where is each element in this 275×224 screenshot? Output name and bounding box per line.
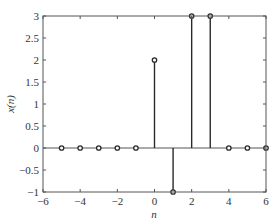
x-tick-label: 2 bbox=[189, 195, 195, 207]
y-tick-label: 1.5 bbox=[25, 76, 39, 88]
stem-marker bbox=[59, 146, 63, 150]
x-tick-label: 6 bbox=[263, 195, 269, 207]
y-tick-label: 2 bbox=[34, 54, 40, 66]
y-tick-label: 0.5 bbox=[25, 120, 39, 132]
x-axis-label: n bbox=[151, 208, 157, 220]
stem-chart: −6−4−20246−1−0.500.511.522.53 n x(n) bbox=[0, 0, 275, 224]
stem-marker bbox=[134, 146, 138, 150]
stem-marker bbox=[115, 146, 119, 150]
x-tick-label: 0 bbox=[152, 195, 158, 207]
y-tick-label: −1 bbox=[27, 186, 39, 198]
x-tick-label: −2 bbox=[111, 195, 123, 207]
stem-marker bbox=[152, 58, 156, 62]
x-tick-label: 4 bbox=[226, 195, 232, 207]
stem-marker bbox=[227, 146, 231, 150]
stem-marker bbox=[245, 146, 249, 150]
axes: −6−4−20246−1−0.500.511.522.53 bbox=[19, 10, 269, 207]
plot-area bbox=[43, 14, 268, 194]
y-tick-label: 0 bbox=[34, 142, 40, 154]
x-tick-label: −4 bbox=[74, 195, 86, 207]
y-tick-label: 1 bbox=[34, 98, 40, 110]
y-tick-label: 3 bbox=[34, 10, 40, 22]
y-tick-label: −0.5 bbox=[19, 164, 39, 176]
stem-marker bbox=[78, 146, 82, 150]
y-tick-label: 2.5 bbox=[25, 32, 39, 44]
y-axis-label: x(n) bbox=[4, 95, 17, 114]
stem-marker bbox=[97, 146, 101, 150]
